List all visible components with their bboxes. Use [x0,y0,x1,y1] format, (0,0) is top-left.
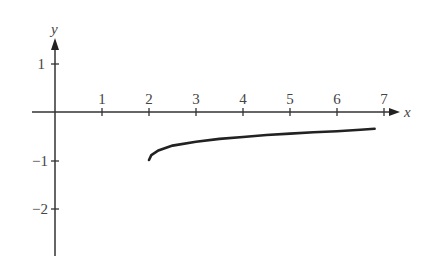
function-curve [149,129,375,160]
y-axis-arrow-icon [51,38,59,50]
x-tick-label: 5 [286,91,294,107]
function-graph: x y 1234567 1 −1 −2 [0,0,430,256]
x-axis-label: x [403,104,411,120]
x-tick-label: 6 [333,91,341,107]
x-tick-label: 4 [239,91,247,107]
y-axis-label: y [49,21,58,37]
x-tick-label: 1 [98,91,106,107]
y-tick-label: 1 [38,56,46,72]
x-tick-label: 3 [192,91,200,107]
y-tick-label: −2 [32,201,48,217]
x-tick-label: 7 [380,91,388,107]
x-tick-label: 2 [145,91,153,107]
x-axis-arrow-icon [389,108,400,116]
y-tick-label: −1 [32,153,48,169]
